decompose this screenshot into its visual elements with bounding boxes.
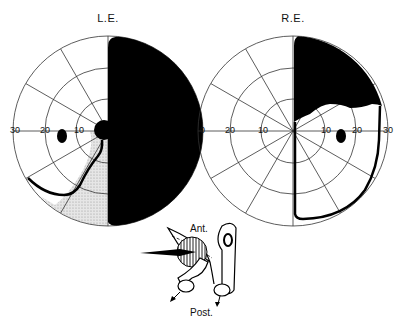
left-tick-30: 30 [10,125,20,135]
left-eye-macular-spot [94,120,114,140]
right-tick-30: 30 [383,125,393,135]
right-eye-title: R.E. [281,12,304,24]
chiasm-anatomy-diagram: Ant. Post. [140,223,236,318]
right-tick-20-left: 20 [225,125,235,135]
left-tick-10: 10 [74,125,84,135]
vessel-lumen [224,234,232,246]
left-eye-field-chart: L.E. 30 20 10 [10,12,206,226]
right-tick-10-right: 10 [321,125,331,135]
right-tick-10-left: 10 [258,125,268,135]
left-tick-20: 20 [40,125,50,135]
posterior-label: Post. [190,307,213,318]
right-eye-blind-spot [336,129,346,143]
stippled-defect-area [40,131,108,226]
anterior-label: Ant. [190,223,208,234]
left-eye-title: L.E. [97,12,119,24]
right-eye-field-chart: R.E. 0 20 10 10 [198,12,393,226]
right-tick-20-right: 20 [352,125,362,135]
right-eye-quadrant-defect [294,36,382,122]
left-eye-blind-spot [57,129,67,143]
right-eye-isopter [295,106,380,219]
visual-field-figure: L.E. 30 20 10 R.E. [0,0,401,326]
left-eye-hemianopia-defect [108,37,206,227]
right-tick-0: 0 [200,125,205,135]
